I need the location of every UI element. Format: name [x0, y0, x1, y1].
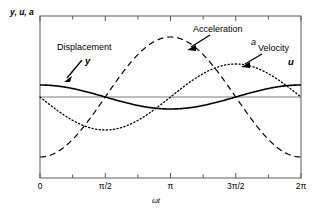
acceleration-arrow [187, 35, 210, 51]
harmonic-motion-figure: y, u, a ωt 0π/2π3π/22π Displacement y Ac… [0, 0, 313, 214]
x-tick-label: 0 [38, 181, 43, 191]
x-tick-label: 2π [296, 181, 307, 191]
acceleration-label: Acceleration [193, 25, 243, 34]
x-tick-label: 3π/2 [227, 181, 245, 191]
displacement-symbol: y [85, 56, 90, 66]
x-tick-label: π/2 [99, 181, 112, 191]
velocity-label: Velocity [258, 44, 289, 53]
velocity-symbol: u [288, 57, 294, 67]
acceleration-symbol: a [251, 38, 256, 47]
velocity-arrow [241, 54, 262, 68]
y-axis-label: y, u, a [10, 8, 34, 17]
displacement-arrow [64, 60, 82, 82]
x-tick-label: π [168, 181, 174, 191]
x-axis-label: ωt [152, 197, 160, 205]
plot-canvas [0, 0, 313, 214]
displacement-label: Displacement [57, 43, 112, 52]
